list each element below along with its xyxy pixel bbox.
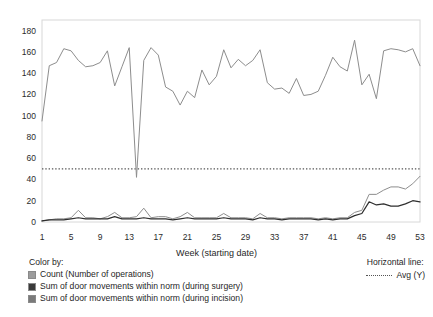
y-tick-80: 80 <box>14 132 36 142</box>
legend-item-avg[interactable]: Avg (Y) <box>366 270 426 281</box>
horizontal-line-legend: Horizontal line: Avg (Y) <box>366 257 426 281</box>
x-tick-37: 37 <box>292 232 316 242</box>
y-tick-180: 180 <box>14 26 36 36</box>
legend-swatch-surgery <box>28 283 36 291</box>
y-tick-160: 160 <box>14 47 36 57</box>
legend-item-surgery[interactable]: Sum of door movements within norm (durin… <box>28 281 243 292</box>
x-tick-9: 9 <box>88 232 112 242</box>
x-tick-21: 21 <box>175 232 199 242</box>
y-tick-140: 140 <box>14 68 36 78</box>
y-tick-100: 100 <box>14 111 36 121</box>
color-by-legend: Color by: Count (Number of operations) S… <box>28 257 243 305</box>
legend-swatch-avg-dotted-line <box>366 275 392 277</box>
horizontal-line-legend-title: Horizontal line: <box>366 257 426 267</box>
y-tick-40: 40 <box>14 174 36 184</box>
x-tick-5: 5 <box>59 232 83 242</box>
color-by-legend-title: Color by: <box>28 257 243 267</box>
x-tick-33: 33 <box>263 232 287 242</box>
legend-label-count: Count (Number of operations) <box>40 269 154 280</box>
x-tick-45: 45 <box>350 232 374 242</box>
x-tick-41: 41 <box>321 232 345 242</box>
y-tick-0: 0 <box>14 217 36 227</box>
legend-swatch-count <box>28 271 36 279</box>
x-tick-1: 1 <box>30 232 54 242</box>
y-tick-20: 20 <box>14 196 36 206</box>
series-line-1 <box>42 176 420 221</box>
x-tick-17: 17 <box>146 232 170 242</box>
legend-swatch-incision <box>28 295 36 303</box>
legend-item-incision[interactable]: Sum of door movements within norm (durin… <box>28 293 243 304</box>
x-tick-53: 53 <box>408 232 432 242</box>
x-tick-13: 13 <box>117 232 141 242</box>
legend-label-incision: Sum of door movements within norm (durin… <box>40 293 243 304</box>
legend-label-surgery: Sum of door movements within norm (durin… <box>40 281 243 292</box>
legend-item-count[interactable]: Count (Number of operations) <box>28 269 243 280</box>
legend-label-avg: Avg (Y) <box>397 270 426 281</box>
series-line-0 <box>42 40 420 177</box>
y-tick-120: 120 <box>14 89 36 99</box>
x-tick-29: 29 <box>234 232 258 242</box>
x-tick-49: 49 <box>379 232 403 242</box>
y-tick-60: 60 <box>14 153 36 163</box>
chart-container: 020406080100120140160180 159131721252933… <box>0 0 433 317</box>
x-tick-25: 25 <box>204 232 228 242</box>
